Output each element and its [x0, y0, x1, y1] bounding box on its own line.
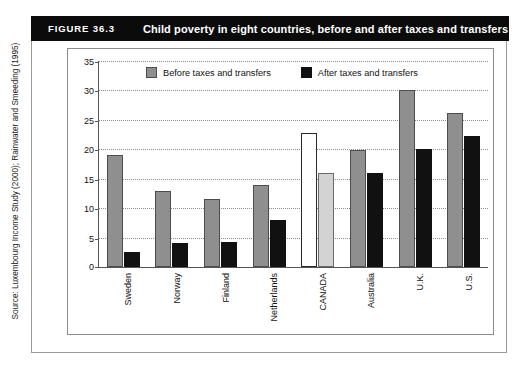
figure-banner: FIGURE 36.3 Child poverty in eight count… — [31, 16, 509, 41]
bar-group — [148, 61, 197, 267]
bar-before — [301, 133, 317, 267]
x-axis-tick-label: U.S. — [464, 273, 474, 291]
x-axis-tick-label: U.K. — [415, 273, 425, 291]
x-axis-tick-label: Sweden — [123, 273, 133, 306]
x-axis-tick-label: Netherlands — [269, 273, 279, 322]
x-axis-tick-label: CANADA — [318, 273, 328, 311]
bar-group — [99, 61, 148, 267]
figure-number-label: FIGURE 36.3 — [31, 23, 115, 34]
y-axis-tick-label: 35 — [84, 57, 94, 67]
bar-group — [391, 61, 440, 267]
bar-before — [204, 199, 220, 267]
bar-before — [107, 155, 123, 267]
y-axis-tick-label: 15 — [84, 175, 94, 185]
bar-group — [294, 61, 343, 267]
bar-group — [196, 61, 245, 267]
figure-container: FIGURE 36.3 Child poverty in eight count… — [31, 16, 507, 353]
plot-area: 05101520253035 SwedenNorwayFinlandNether… — [98, 61, 488, 268]
bar-after — [270, 220, 286, 267]
bar-group — [245, 61, 294, 267]
bar-before — [155, 191, 171, 268]
x-axis-tick-label: Australia — [366, 273, 376, 308]
bar-before — [350, 150, 366, 267]
bar-group — [439, 61, 488, 267]
bar-after — [172, 243, 188, 267]
bar-after — [124, 252, 140, 267]
bar-group — [342, 61, 391, 267]
y-axis-tick-label: 30 — [84, 86, 94, 96]
source-note: Source: Luxembourg Income Study (2000); … — [11, 0, 20, 320]
figure-title: Child poverty in eight countries, before… — [115, 23, 508, 35]
y-axis-tick-label: 20 — [84, 145, 94, 155]
x-axis-tick-label: Finland — [221, 273, 231, 303]
bar-before — [447, 113, 463, 267]
y-axis-tick-label: 25 — [84, 116, 94, 126]
y-axis-tick-label: 0 — [89, 262, 94, 272]
y-axis-tick-label: 10 — [84, 204, 94, 214]
bar-after — [367, 173, 383, 267]
x-axis-tick-label: Norway — [172, 273, 182, 304]
bar-after — [221, 242, 237, 267]
bar-before — [253, 185, 269, 267]
y-axis-tick-mark — [95, 267, 99, 268]
plot-panel: Before taxes and transfers After taxes a… — [67, 48, 494, 335]
bar-after — [464, 136, 480, 267]
bar-before — [399, 90, 415, 267]
bar-after — [318, 173, 334, 267]
bar-after — [416, 149, 432, 267]
y-axis-tick-label: 5 — [89, 234, 94, 244]
